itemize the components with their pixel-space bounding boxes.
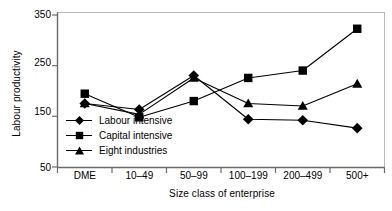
x-tick-label-200-499: 200–499 (283, 170, 322, 181)
data-point (352, 79, 362, 88)
data-point (243, 114, 254, 125)
data-point (352, 123, 363, 134)
data-point (81, 89, 89, 97)
legend-item-capital-intensive: Capital intensive (66, 128, 172, 143)
x-tick-label-10-49: 10–49 (125, 170, 153, 181)
chart-legend: Labour intensive Capital intensive Eight… (66, 113, 172, 158)
legend-item-labour-intensive: Labour intensive (66, 113, 172, 128)
legend-key-square-icon (66, 128, 92, 143)
series-eight-industries (80, 73, 363, 118)
y-axis-ticks (52, 15, 58, 167)
x-axis-title: Size class of enterprise (57, 188, 387, 199)
x-tick-label-500plus: 500+ (346, 170, 369, 181)
x-tick-label-100-199: 100–199 (229, 170, 268, 181)
legend-label-labour-intensive: Labour intensive (99, 115, 172, 126)
data-point (353, 25, 361, 33)
y-axis-tick-labels: 350 250 150 50 (24, 0, 51, 211)
data-point (243, 99, 253, 108)
x-tick-label-dme: DME (74, 170, 96, 181)
chart-figure: Labour productivity 350 250 150 50 (0, 0, 392, 211)
legend-key-triangle-icon (66, 143, 92, 158)
legend-label-eight-industries: Eight industries (99, 145, 167, 156)
x-axis-ticks (58, 168, 385, 174)
legend-item-eight-industries: Eight industries (66, 143, 172, 158)
y-tick-label-50: 50 (40, 163, 51, 173)
legend-label-capital-intensive: Capital intensive (99, 130, 172, 141)
series-capital-intensive (81, 25, 362, 122)
y-tick-label-150: 150 (34, 107, 51, 117)
data-point (244, 74, 252, 82)
data-point (297, 115, 308, 126)
data-point (299, 66, 307, 74)
y-tick-label-350: 350 (34, 10, 51, 20)
x-tick-label-50-99: 50–99 (180, 170, 208, 181)
legend-key-diamond-icon (66, 113, 92, 128)
y-tick-label-250: 250 (34, 58, 51, 68)
data-point (190, 97, 198, 105)
y-axis-title: Labour productivity (11, 24, 22, 164)
